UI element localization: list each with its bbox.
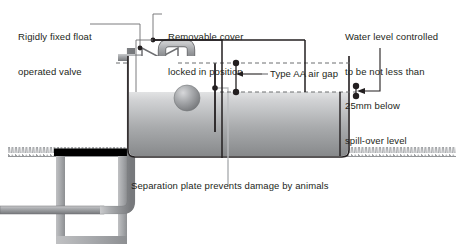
- chamber-cover-plate: [54, 149, 130, 157]
- leader-float-valve: [90, 24, 142, 50]
- label-water-level-line4: spill-over level: [345, 135, 438, 147]
- label-float-valve: Rigidly fixed float operated valve: [18, 8, 92, 100]
- label-water-level-line3: 25mm below: [345, 100, 438, 112]
- label-float-valve-line1: Rigidly fixed float: [18, 31, 92, 43]
- label-separation-plate: Separation plate prevents damage by anim…: [131, 180, 329, 192]
- label-float-valve-line2: operated valve: [18, 66, 92, 78]
- label-water-level: Water level controlled to be not less th…: [345, 8, 438, 169]
- diagram-canvas: Rigidly fixed float operated valve Remov…: [0, 0, 459, 244]
- label-water-level-line2: to be not less than: [345, 66, 438, 78]
- label-removable-cover-line2: locked in position: [168, 66, 243, 78]
- label-removable-cover-line1: Removable cover: [168, 31, 243, 43]
- label-removable-cover: Removable cover locked in position: [168, 8, 243, 100]
- label-air-gap: Type AA air gap: [270, 68, 338, 80]
- underground-chamber: [56, 156, 127, 244]
- label-water-level-line1: Water level controlled: [345, 31, 438, 43]
- supply-pipe-horizontal: [0, 206, 104, 214]
